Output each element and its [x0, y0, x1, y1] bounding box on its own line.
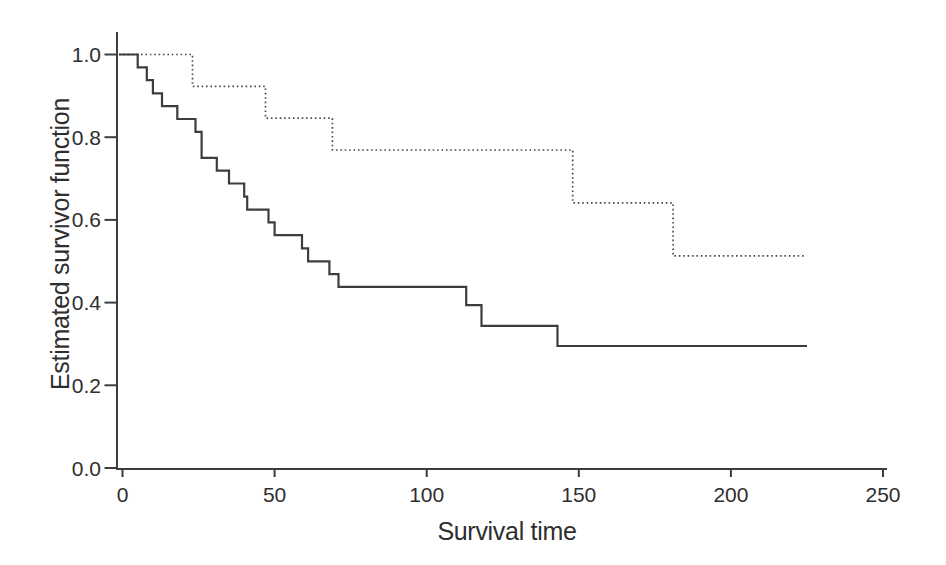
- y-axis-ticks: 0.00.20.40.60.81.0: [72, 43, 117, 480]
- upper-dotted-curve: [119, 55, 804, 256]
- y-tick-label: 0.2: [72, 374, 101, 397]
- x-tick-label: 100: [409, 483, 444, 506]
- data-series: [119, 55, 807, 347]
- x-axis-ticks: 050100150200250: [117, 469, 901, 506]
- y-tick-label: 0.4: [72, 291, 102, 314]
- x-tick-label: 0: [117, 483, 129, 506]
- x-tick-label: 150: [561, 483, 596, 506]
- survival-plot-figure: 0.00.20.40.60.81.0 050100150200250 Estim…: [0, 0, 946, 565]
- x-tick-label: 200: [713, 483, 748, 506]
- axes: [116, 32, 887, 470]
- y-tick-label: 1.0: [72, 43, 101, 66]
- y-tick-label: 0.0: [72, 457, 101, 480]
- y-tick-label: 0.6: [72, 208, 101, 231]
- x-axis-title: Survival time: [437, 517, 576, 545]
- y-axis-title: Estimated survivor function: [46, 98, 74, 390]
- lower-solid-curve: [119, 55, 807, 347]
- x-tick-label: 50: [263, 483, 286, 506]
- survival-chart-canvas: 0.00.20.40.60.81.0 050100150200250 Estim…: [0, 0, 946, 565]
- x-tick-label: 250: [865, 483, 900, 506]
- y-tick-label: 0.8: [72, 126, 101, 149]
